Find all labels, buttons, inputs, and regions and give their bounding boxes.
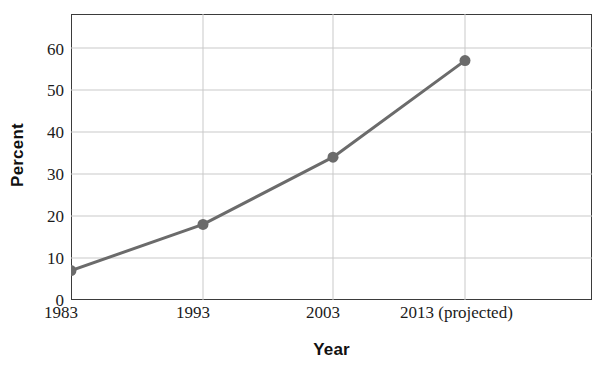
plot-area [71, 14, 592, 300]
x-tick-label-1993: 1993 [176, 304, 210, 321]
y-tick-label-50: 50 [10, 82, 64, 99]
x-tick-label-2013: 2013 (projected) [400, 304, 513, 321]
data-point-markers [71, 55, 471, 276]
x-tick-label-2003: 2003 [306, 304, 340, 321]
data-point-2003 [328, 152, 339, 163]
y-tick-label-60: 60 [10, 41, 64, 58]
x-axis-title: Year [71, 340, 592, 360]
data-line-series-percent [71, 61, 465, 271]
y-tick-label-20: 20 [10, 208, 64, 225]
y-tick-label-10: 10 [10, 250, 64, 267]
data-point-1983 [71, 265, 77, 276]
y-tick-label-40: 40 [10, 124, 64, 141]
data-point-1993 [198, 219, 209, 230]
x-tick-label-1983: 1983 [44, 304, 78, 321]
y-tick-label-30: 30 [10, 166, 64, 183]
chart-figure: Percent 0 10 20 30 40 50 60 [0, 0, 602, 370]
data-point-2013 [460, 55, 471, 66]
